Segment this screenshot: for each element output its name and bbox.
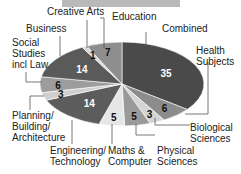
value-label: 5 [111, 112, 117, 123]
pie-chart: 35635514361417 Creative Arts Education B… [0, 0, 241, 174]
value-label: 6 [162, 103, 168, 114]
label-health-2: Subjects [196, 56, 234, 67]
value-label: 7 [105, 47, 111, 58]
label-planning-3: Architecture [12, 132, 66, 143]
label-social-2: Studies [12, 48, 45, 59]
value-label: 14 [76, 64, 88, 75]
value-label: 6 [55, 80, 61, 91]
label-social-3: incl Law [12, 59, 49, 70]
label-social-1: Social [12, 37, 39, 48]
label-maths-2: Computer [108, 156, 153, 167]
value-label: 5 [131, 111, 137, 122]
value-label: 14 [84, 98, 96, 109]
label-education: Education [112, 11, 156, 22]
label-engineering-1: Engineering/ [50, 145, 106, 156]
label-planning-2: Building/ [12, 121, 51, 132]
label-health-1: Health [196, 45, 225, 56]
leader-physical [136, 124, 155, 135]
label-biological-2: Sciences [190, 133, 231, 144]
value-label: 1 [90, 50, 96, 61]
label-business: Business [26, 23, 67, 34]
pie-slices [40, 42, 204, 126]
label-combined: Combined [162, 23, 208, 34]
value-label: 3 [147, 109, 153, 120]
leader-planning [30, 96, 44, 110]
leader-social [26, 72, 42, 82]
label-biological-1: Biological [190, 122, 233, 133]
label-planning-1: Planning/ [12, 110, 54, 121]
label-maths-1: Maths & [108, 145, 145, 156]
value-label: 35 [161, 68, 173, 79]
label-creative-arts: Creative Arts [47, 6, 104, 17]
label-physical-1: Physical [157, 145, 194, 156]
label-physical-2: Sciences [157, 156, 198, 167]
label-engineering-2: Technology [50, 156, 101, 167]
